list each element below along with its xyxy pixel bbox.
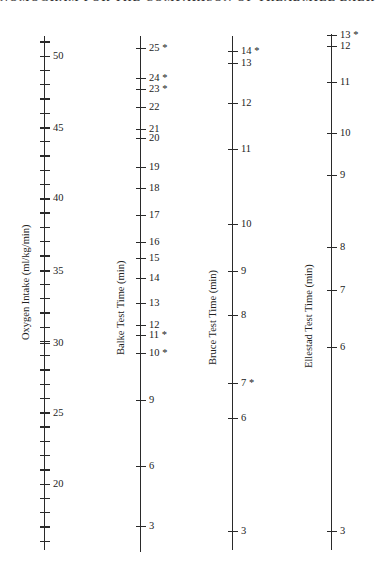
oxygen-minor-tick	[40, 455, 50, 456]
balke-tick-label: 22	[149, 102, 160, 112]
oxygen-tick	[40, 484, 50, 485]
bruce-tick-label: 11	[241, 144, 251, 154]
ellestad-tick	[327, 347, 337, 348]
balke-tick-label: 24 *	[149, 73, 167, 83]
balke-tick-label: 17	[149, 210, 160, 220]
bruce-tick	[228, 418, 238, 419]
balke-tick-label: 9	[149, 395, 154, 405]
bruce-tick	[228, 103, 238, 104]
balke-tick	[136, 78, 146, 79]
oxygen-minor-tick	[40, 241, 50, 242]
balke-axis-line	[140, 36, 141, 552]
oxygen-tick	[40, 343, 50, 344]
oxygen-minor-tick	[40, 327, 50, 328]
oxygen-axis-title: Oxygen Intake (ml/kg/min)	[20, 225, 31, 340]
oxygen-minor-tick	[40, 384, 50, 385]
ellestad-tick	[327, 247, 337, 248]
oxygen-minor-tick	[40, 227, 50, 228]
oxygen-minor-tick	[40, 255, 50, 256]
balke-tick-label: 14	[149, 273, 160, 283]
bruce-tick-label: 10	[241, 219, 252, 229]
ellestad-axis-title: Ellestad Test Time (min)	[303, 264, 314, 368]
oxygen-tick-label: 25	[53, 408, 64, 418]
ellestad-tick-label: 10	[340, 128, 351, 138]
balke-tick	[136, 258, 146, 259]
ellestad-tick-label: 8	[340, 242, 345, 252]
bruce-tick-label: 7 *	[241, 378, 254, 388]
oxygen-tick-label: 50	[53, 51, 64, 61]
bruce-tick	[228, 383, 238, 384]
balke-tick	[136, 138, 146, 139]
balke-tick-label: 3	[149, 521, 154, 531]
oxygen-tick-label: 35	[53, 266, 64, 276]
oxygen-minor-tick	[40, 41, 50, 42]
oxygen-minor-tick	[40, 184, 50, 185]
oxygen-tick-label: 45	[53, 123, 64, 133]
ellestad-tick	[327, 290, 337, 291]
oxygen-minor-tick	[40, 284, 50, 285]
balke-tick-label: 25 *	[149, 43, 167, 53]
ellestad-tick	[327, 46, 337, 47]
balke-tick	[136, 353, 146, 354]
ellestad-tick	[327, 175, 337, 176]
oxygen-minor-tick	[40, 212, 50, 213]
balke-tick-label: 15	[149, 253, 160, 263]
balke-tick	[136, 303, 146, 304]
bruce-tick-label: 9	[241, 266, 246, 276]
balke-tick	[136, 325, 146, 326]
oxygen-minor-tick	[40, 355, 50, 356]
bruce-axis-line	[232, 36, 233, 550]
bruce-tick	[228, 51, 238, 52]
oxygen-minor-tick	[40, 98, 50, 99]
balke-tick-label: 16	[149, 237, 160, 247]
oxygen-minor-tick	[40, 469, 50, 470]
oxygen-minor-tick	[40, 84, 50, 85]
bruce-tick	[228, 315, 238, 316]
oxygen-minor-tick	[40, 70, 50, 71]
oxygen-tick-label: 30	[53, 338, 64, 348]
ellestad-tick	[327, 531, 337, 532]
oxygen-minor-tick	[40, 541, 50, 542]
balke-tick	[136, 167, 146, 168]
balke-tick	[136, 48, 146, 49]
oxygen-minor-tick	[40, 398, 50, 399]
balke-tick-label: 19	[149, 162, 160, 172]
balke-tick	[136, 89, 146, 90]
ellestad-tick	[327, 82, 337, 83]
balke-tick-label: 6	[149, 461, 154, 471]
bruce-tick	[228, 271, 238, 272]
oxygen-minor-tick	[40, 312, 50, 313]
oxygen-tick	[40, 128, 50, 129]
oxygen-tick	[40, 413, 50, 414]
bruce-tick	[228, 224, 238, 225]
bruce-tick	[228, 149, 238, 150]
ellestad-axis-line	[331, 34, 332, 550]
bruce-axis-title: Bruce Test Time (min)	[207, 270, 218, 365]
oxygen-minor-tick	[40, 170, 50, 171]
oxygen-minor-tick	[40, 298, 50, 299]
balke-tick	[136, 466, 146, 467]
nomogram-chart: 50454035302520Oxygen Intake (ml/kg/min)2…	[0, 0, 375, 584]
oxygen-minor-tick	[40, 498, 50, 499]
balke-tick-label: 13	[149, 298, 160, 308]
balke-tick	[136, 400, 146, 401]
oxygen-minor-tick	[40, 369, 50, 370]
balke-tick	[136, 526, 146, 527]
balke-tick	[136, 215, 146, 216]
ellestad-tick-label: 12	[340, 41, 351, 51]
balke-tick	[136, 107, 146, 108]
ellestad-tick-label: 13 *	[340, 30, 358, 40]
balke-tick	[136, 188, 146, 189]
oxygen-minor-tick	[40, 113, 50, 114]
ellestad-tick-label: 3	[340, 526, 345, 536]
balke-tick-label: 18	[149, 183, 160, 193]
balke-tick-label: 23 *	[149, 84, 167, 94]
balke-tick-label: 20	[149, 133, 160, 143]
ellestad-tick	[327, 35, 337, 36]
ellestad-tick-label: 7	[340, 285, 345, 295]
balke-tick	[136, 129, 146, 130]
oxygen-minor-tick	[40, 526, 50, 527]
ellestad-tick-label: 11	[340, 77, 350, 87]
oxygen-tick-label: 20	[53, 479, 64, 489]
bruce-tick-label: 6	[241, 413, 246, 423]
